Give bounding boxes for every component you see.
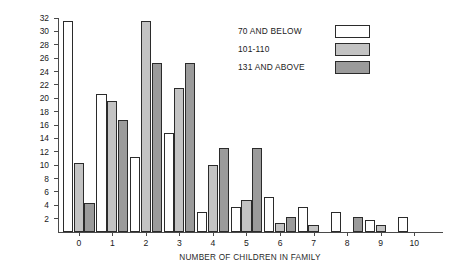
bar bbox=[365, 220, 375, 232]
x-axis-tick-label: 7 bbox=[296, 238, 332, 248]
y-axis-tick-label: 24 bbox=[40, 67, 49, 77]
y-axis-tick-label: 2 bbox=[44, 214, 49, 224]
y-axis-tick-label: 32 bbox=[40, 13, 49, 23]
y-axis-tick-label: 16 bbox=[40, 120, 49, 130]
y-axis-tick-label: 30 bbox=[40, 26, 49, 36]
bar bbox=[63, 21, 73, 232]
bar bbox=[264, 197, 274, 232]
bar bbox=[275, 223, 285, 232]
bar bbox=[96, 94, 106, 232]
x-axis-tick-label: 3 bbox=[161, 238, 197, 248]
bar-group bbox=[164, 18, 196, 232]
bar bbox=[152, 63, 162, 232]
x-axis-tick-label: 0 bbox=[61, 238, 97, 248]
legend-item-label: 131 AND ABOVE bbox=[238, 62, 305, 72]
x-axis-tick-mark bbox=[179, 232, 180, 236]
x-axis-tick-label: 9 bbox=[363, 238, 399, 248]
bar bbox=[353, 217, 363, 232]
legend-item: 101-110 bbox=[238, 42, 388, 58]
y-axis-tick: 4 bbox=[0, 200, 58, 210]
bar bbox=[107, 101, 117, 232]
y-axis-tick: 22 bbox=[0, 80, 58, 90]
bar-group bbox=[96, 18, 128, 232]
bar bbox=[208, 165, 218, 232]
bar-group bbox=[197, 18, 229, 232]
bar bbox=[376, 225, 386, 232]
y-axis-tick-label: 10 bbox=[40, 160, 49, 170]
legend-item-swatch bbox=[335, 25, 370, 38]
bar bbox=[185, 63, 195, 232]
y-axis-tick: 20 bbox=[0, 93, 58, 103]
bar-group bbox=[398, 18, 430, 232]
x-axis-tick-mark bbox=[246, 232, 247, 236]
bar bbox=[84, 203, 94, 232]
y-axis-tick-label: 18 bbox=[40, 107, 49, 117]
bar bbox=[298, 207, 308, 232]
y-axis-tick-label: 22 bbox=[40, 80, 49, 90]
legend: 70 AND BELOW101-110131 AND ABOVE bbox=[238, 24, 388, 78]
y-axis-tick-label: 12 bbox=[40, 147, 49, 157]
y-axis-tick-label: 20 bbox=[40, 93, 49, 103]
y-axis-tick-label: 26 bbox=[40, 53, 49, 63]
y-axis-tick: 26 bbox=[0, 53, 58, 63]
bar bbox=[286, 217, 296, 232]
y-axis-tick: 10 bbox=[0, 160, 58, 170]
y-axis-tick: 18 bbox=[0, 107, 58, 117]
y-axis-tick-label: 8 bbox=[44, 174, 49, 184]
y-axis-tick-label: 28 bbox=[40, 40, 49, 50]
x-axis-line bbox=[58, 232, 443, 233]
y-axis-tick: 30 bbox=[0, 26, 58, 36]
y-axis-tick-label: 14 bbox=[40, 133, 49, 143]
legend-item-swatch bbox=[335, 43, 370, 56]
bar bbox=[241, 200, 251, 232]
bar-group bbox=[63, 18, 95, 232]
y-axis-tick: 8 bbox=[0, 174, 58, 184]
x-axis-tick-mark bbox=[381, 232, 382, 236]
bar bbox=[252, 148, 262, 232]
x-axis-tick-mark bbox=[280, 232, 281, 236]
x-axis-tick-mark bbox=[112, 232, 113, 236]
bar bbox=[141, 21, 151, 232]
bar bbox=[398, 217, 408, 232]
x-axis-tick-mark bbox=[213, 232, 214, 236]
y-axis-tick: 28 bbox=[0, 40, 58, 50]
y-axis-tick: 14 bbox=[0, 133, 58, 143]
x-axis-tick-label: 10 bbox=[396, 238, 432, 248]
x-axis-tick-label: 4 bbox=[195, 238, 231, 248]
bar-chart: PERCENT OF PARENTS IN POPULATION NUMBER … bbox=[0, 0, 451, 275]
x-axis-tick-label: 1 bbox=[94, 238, 130, 248]
bar bbox=[164, 133, 174, 232]
x-axis-tick-mark bbox=[79, 232, 80, 236]
y-axis-tick: 32 bbox=[0, 13, 58, 23]
legend-item-label: 70 AND BELOW bbox=[238, 26, 302, 36]
x-axis-tick-mark bbox=[314, 232, 315, 236]
x-axis-title: NUMBER OF CHILDREN IN FAMILY bbox=[55, 253, 445, 262]
y-axis-tick: 24 bbox=[0, 67, 58, 77]
bar bbox=[74, 163, 84, 232]
x-axis-tick-mark bbox=[146, 232, 147, 236]
bar bbox=[118, 120, 128, 232]
x-axis-tick-label: 8 bbox=[329, 238, 365, 248]
legend-item: 131 AND ABOVE bbox=[238, 60, 388, 76]
bar bbox=[130, 157, 140, 232]
legend-item: 70 AND BELOW bbox=[238, 24, 388, 40]
y-axis-tick-label: 6 bbox=[44, 187, 49, 197]
bar bbox=[331, 212, 341, 232]
x-axis-tick-mark bbox=[347, 232, 348, 236]
bar bbox=[308, 225, 318, 232]
bar bbox=[231, 207, 241, 232]
legend-item-label: 101-110 bbox=[238, 44, 270, 54]
y-axis-tick: 16 bbox=[0, 120, 58, 130]
x-axis-tick-mark bbox=[414, 232, 415, 236]
legend-item-swatch bbox=[335, 61, 370, 74]
y-axis-tick: 6 bbox=[0, 187, 58, 197]
x-axis-tick-label: 6 bbox=[262, 238, 298, 248]
y-axis-tick: 12 bbox=[0, 147, 58, 157]
x-axis-tick-label: 2 bbox=[128, 238, 164, 248]
x-axis-tick-label: 5 bbox=[228, 238, 264, 248]
bar bbox=[219, 148, 229, 232]
bar bbox=[174, 88, 184, 232]
y-axis-tick-label: 4 bbox=[44, 200, 49, 210]
bar bbox=[197, 212, 207, 232]
bar-group bbox=[130, 18, 162, 232]
